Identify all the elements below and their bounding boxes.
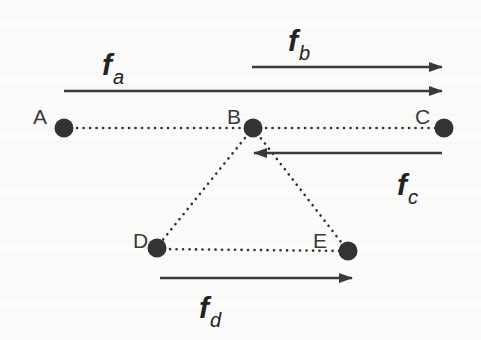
node-label-e: E [313, 230, 327, 251]
flow-subscript: c [408, 186, 418, 208]
flow-arrows [64, 67, 442, 278]
nodes [55, 119, 454, 261]
flow-subscript: b [299, 42, 310, 64]
flow-label-fc: fc [397, 170, 417, 200]
node-label-c: C [415, 106, 430, 127]
flow-symbol: f [288, 24, 298, 57]
flow-label-fd: fd [199, 293, 220, 323]
node-b [244, 119, 263, 138]
flow-subscript: d [210, 309, 221, 331]
node-d [148, 239, 167, 258]
dotted-edges [64, 128, 444, 251]
flow-symbol: f [397, 168, 407, 201]
node-label-d: D [133, 230, 148, 251]
node-a [55, 119, 74, 138]
flow-label-fb: fb [288, 26, 309, 56]
node-label-b: B [227, 106, 241, 127]
node-label-a: A [33, 106, 47, 127]
node-c [435, 119, 454, 138]
flow-symbol: f [102, 48, 112, 81]
flow-symbol: f [199, 291, 209, 324]
flow-label-fa: fa [102, 50, 123, 80]
node-e [339, 242, 358, 261]
edge-b-d [157, 128, 253, 247]
edge-b-e [253, 128, 348, 251]
flow-subscript: a [113, 66, 124, 88]
